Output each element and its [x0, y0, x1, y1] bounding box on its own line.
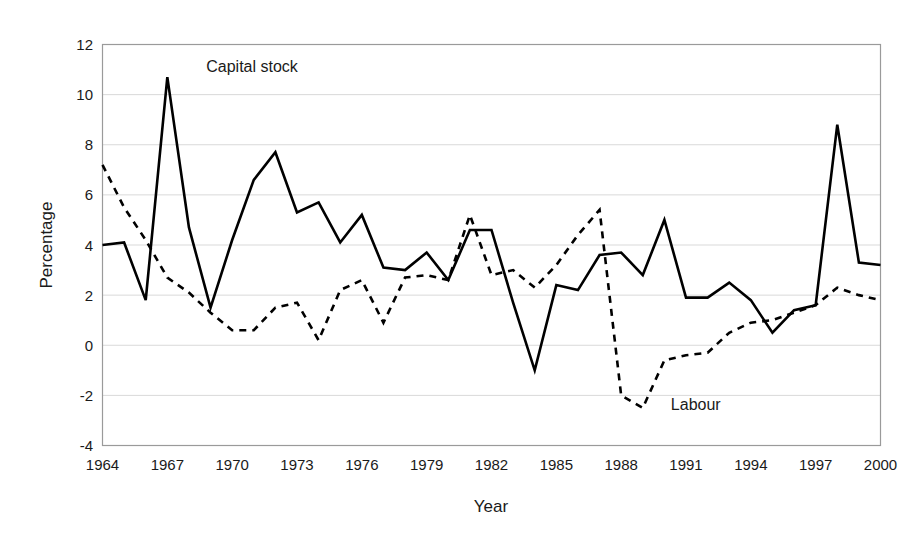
x-axis-tick-label: 1991: [669, 456, 702, 473]
x-axis-tick-label: 1973: [280, 456, 313, 473]
x-axis-tick-label: 1982: [475, 456, 508, 473]
y-axis-tick-label: -2: [80, 387, 93, 404]
x-axis-tick-label: 1988: [604, 456, 637, 473]
percentage-vs-year-line-chart: 121086420-2-4 19641967197019731976197919…: [0, 0, 921, 534]
chart-figure: 121086420-2-4 19641967197019731976197919…: [0, 0, 921, 534]
x-axis-tick-label: 1979: [410, 456, 443, 473]
x-axis-tick-label: 1976: [345, 456, 378, 473]
x-axis-tick-label: 1985: [540, 456, 573, 473]
x-axis-tick-label: 1997: [799, 456, 832, 473]
y-axis-tick-label: -4: [80, 437, 93, 454]
x-axis-tick-label: 2000: [864, 456, 897, 473]
series-annotation-capital-stock: Capital stock: [206, 58, 299, 75]
x-axis-tick-label: 1964: [86, 456, 119, 473]
y-axis-tick-label: 6: [85, 186, 93, 203]
x-axis-tick-label: 1994: [734, 456, 767, 473]
y-axis-tick-label: 4: [85, 237, 93, 254]
y-axis-tick-label: 0: [85, 337, 93, 354]
x-axis-tick-label: 1970: [215, 456, 248, 473]
chart-background: [0, 0, 921, 534]
y-axis-tick-label: 12: [76, 36, 93, 53]
series-annotation-labour: Labour: [671, 396, 721, 413]
x-axis-title: Year: [474, 497, 509, 516]
y-axis-tick-label: 10: [76, 86, 93, 103]
x-axis-tick-label: 1967: [151, 456, 184, 473]
y-axis-tick-label: 8: [85, 136, 93, 153]
y-axis-tick-label: 2: [85, 287, 93, 304]
y-axis-title: Percentage: [37, 202, 56, 289]
